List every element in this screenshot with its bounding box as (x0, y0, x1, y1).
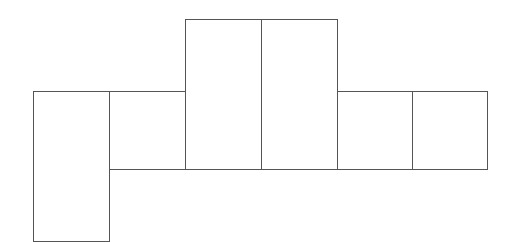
face-3 (185, 19, 262, 170)
face-4 (261, 19, 338, 170)
face-6 (412, 91, 488, 170)
face-1 (33, 91, 110, 242)
face-5 (337, 91, 413, 170)
face-2 (109, 91, 186, 170)
net-diagram (0, 0, 514, 242)
